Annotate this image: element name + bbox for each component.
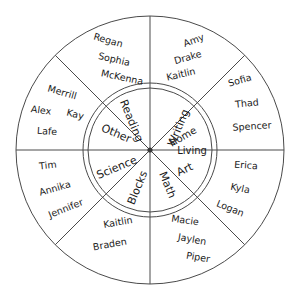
name-lafe: Lafe: [37, 125, 58, 137]
name-kaitlin-writing: Kaitlin: [165, 65, 196, 82]
name-tim: Tim: [38, 159, 57, 172]
name-annika: Annika: [38, 178, 72, 197]
name-sofia: Sofia: [227, 71, 253, 88]
wheel-diagram: Writing Home Living Art Math Blocks Scie…: [0, 0, 299, 295]
name-thad: Thad: [234, 96, 260, 110]
center-label-blocks: Blocks: [125, 169, 151, 207]
name-mckenna: McKenna: [100, 67, 144, 87]
center-hub: [147, 147, 152, 152]
center-label-math: Math: [156, 170, 179, 200]
name-kyla: Kyla: [229, 181, 250, 196]
name-erica: Erica: [234, 159, 258, 172]
name-alex: Alex: [30, 103, 52, 117]
name-braden: Braden: [92, 236, 128, 253]
name-amy: Amy: [182, 31, 206, 49]
center-label-living: Living: [177, 145, 207, 156]
name-macie: Macie: [171, 213, 200, 228]
name-kay: Kay: [65, 107, 85, 122]
name-jennifer: Jennifer: [46, 196, 85, 220]
name-jaylen: Jaylen: [176, 231, 207, 247]
name-kaitlin-blocks: Kaitlin: [102, 214, 133, 230]
name-spencer: Spencer: [232, 119, 272, 133]
wheel-svg: Writing Home Living Art Math Blocks Scie…: [0, 0, 299, 295]
center-label-science: Science: [95, 153, 140, 181]
name-piper: Piper: [185, 250, 211, 265]
name-merrill: Merrill: [47, 83, 78, 102]
name-logan: Logan: [215, 198, 246, 219]
name-sophia: Sophia: [97, 50, 131, 68]
center-label-art: Art: [175, 160, 196, 179]
name-regan: Regan: [92, 31, 124, 50]
name-drake: Drake: [173, 48, 203, 66]
